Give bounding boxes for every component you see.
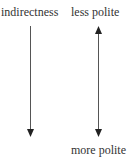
indirectness-arrow [27,26,34,137]
arrows-diagram [0,0,135,162]
arrowhead-down-icon [27,129,34,137]
arrowhead-up-icon [95,26,102,34]
arrowhead-down-icon [95,129,102,137]
politeness-arrow [95,26,102,137]
